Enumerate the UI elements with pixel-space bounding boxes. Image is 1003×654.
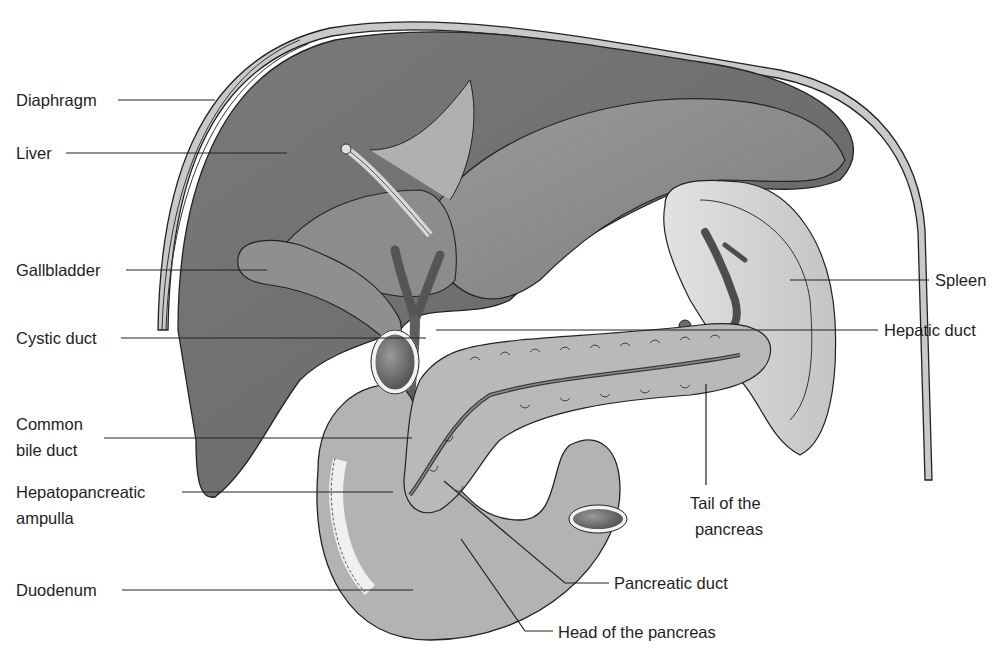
anatomy-diagram (0, 0, 1003, 654)
label-ampulla-line2: ampulla (16, 505, 74, 532)
label-tail-line1: Tail of the (690, 490, 761, 517)
label-diaphragm: Diaphragm (16, 87, 97, 114)
label-common-bile-duct-line1: Common (16, 411, 83, 438)
label-head-of-pancreas: Head of the pancreas (558, 619, 716, 646)
spleen (664, 180, 836, 455)
label-hepatic-duct: Hepatic duct (884, 317, 976, 344)
label-spleen: Spleen (935, 267, 986, 294)
label-duodenum: Duodenum (16, 577, 97, 604)
label-tail-line2: pancreas (695, 516, 763, 543)
label-liver: Liver (16, 140, 52, 167)
label-ampulla-line1: Hepatopancreatic (16, 479, 145, 506)
label-common-bile-duct-line2: bile duct (16, 437, 77, 464)
label-cystic-duct: Cystic duct (16, 325, 97, 352)
label-gallbladder: Gallbladder (16, 257, 100, 284)
label-pancreatic-duct: Pancreatic duct (614, 570, 728, 597)
